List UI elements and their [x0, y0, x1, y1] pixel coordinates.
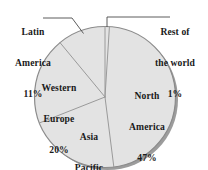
slice-label-north-america: North America 47%: [118, 70, 176, 170]
slice-label-rest-of-world-line1: Rest of: [144, 27, 206, 37]
pie-chart: Latin America 11% Rest of the world 1% N…: [0, 0, 208, 170]
slice-label-western-europe-line1: Western: [26, 83, 92, 93]
slice-value-western-europe: 20%: [26, 145, 92, 155]
slice-value-north-america: 47%: [118, 153, 176, 163]
slice-label-western-europe-line2: Europe: [26, 114, 92, 124]
slice-label-rest-of-world-line2: the world: [144, 58, 206, 68]
slice-label-north-america-line1: North: [118, 91, 176, 101]
slice-label-western-europe: Western Europe 20%: [26, 62, 92, 170]
slice-label-latin-america-line1: Latin: [2, 27, 64, 37]
slice-label-north-america-line2: America: [118, 122, 176, 132]
